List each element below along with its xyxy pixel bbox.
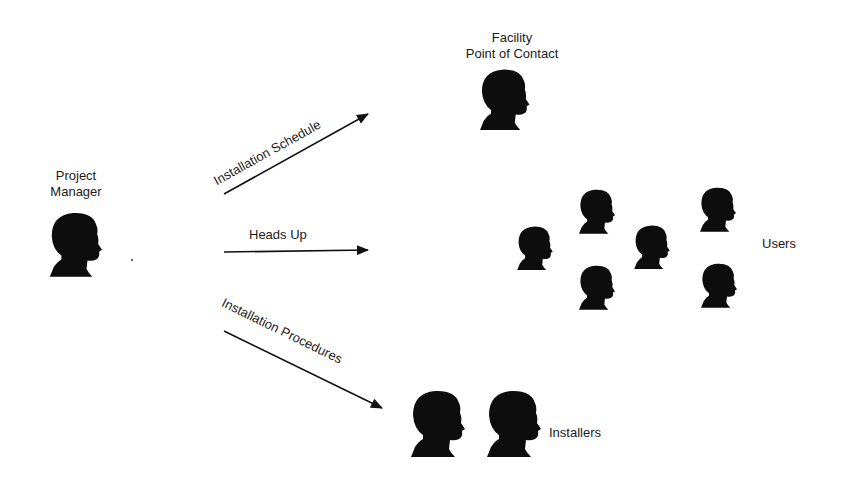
edge-label-heads-up: Heads Up (249, 227, 307, 243)
user-head-icon (579, 190, 615, 234)
project-manager-line1: Project (36, 168, 116, 184)
installers-label: Installers (549, 425, 601, 441)
project-manager-line2: Manager (36, 184, 116, 200)
user-head-icon (634, 226, 669, 269)
facility-contact-head-icon (480, 70, 529, 130)
user-head-icon (517, 227, 552, 270)
diagram-canvas (0, 0, 849, 485)
user-head-icon (579, 266, 615, 310)
installer-head-icon (411, 391, 465, 457)
project-manager-head-icon (50, 213, 102, 277)
installer-head-icon (487, 391, 541, 457)
user-head-icon (701, 264, 737, 308)
arrow-installation-schedule (224, 114, 368, 194)
facility-line2: Point of Contact (452, 46, 572, 62)
facility-contact-label: Facility Point of Contact (452, 30, 572, 62)
project-manager-label: Project Manager (36, 168, 116, 200)
facility-line1: Facility (452, 30, 572, 46)
users-label: Users (762, 236, 796, 252)
user-head-icon (700, 188, 736, 232)
stray-dot (131, 259, 133, 261)
arrow-heads-up (224, 250, 368, 252)
